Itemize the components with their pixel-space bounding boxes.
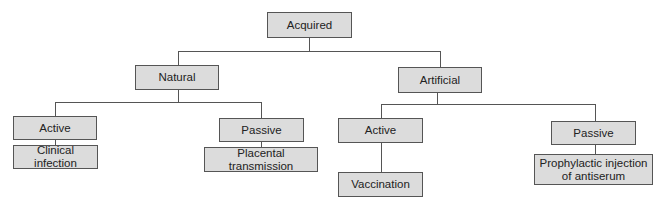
node-placental-transmission: Placental transmission	[204, 147, 318, 172]
immunity-tree-diagram: Acquired Natural Artificial Active Passi…	[0, 0, 663, 203]
connector	[381, 142, 382, 173]
node-prophylactic-injection: Prophylactic injection of antiserum	[534, 154, 653, 185]
connector	[178, 51, 440, 52]
connector	[440, 51, 441, 67]
connector	[437, 92, 438, 104]
node-acquired: Acquired	[267, 12, 352, 38]
node-natural-active: Active	[13, 116, 97, 140]
connector	[595, 144, 596, 154]
node-natural-passive: Passive	[219, 118, 304, 142]
node-artificial-active: Active	[338, 118, 423, 143]
node-natural: Natural	[135, 65, 219, 90]
node-vaccination: Vaccination	[338, 172, 423, 197]
node-artificial-passive: Passive	[551, 121, 636, 145]
node-clinical-infection: Clinical infection	[13, 145, 98, 169]
connector	[381, 104, 382, 118]
connector	[178, 89, 179, 102]
node-artificial: Artificial	[398, 67, 482, 93]
connector	[309, 37, 310, 51]
connector	[178, 51, 179, 65]
connector	[261, 102, 262, 118]
connector	[55, 102, 56, 116]
connector	[595, 104, 596, 121]
connector	[55, 102, 261, 103]
connector	[381, 104, 595, 105]
